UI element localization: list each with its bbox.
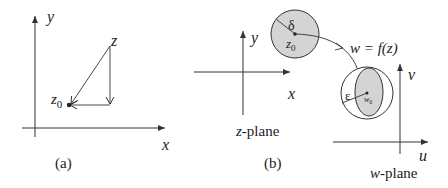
w-plane-v-label: v — [408, 66, 416, 83]
complex-mapping-diagram: y x z z0 (a) y x z-plane δ z0 w = f(z) — [0, 0, 448, 188]
caption-b: (b) — [264, 155, 282, 172]
image-region — [355, 68, 383, 116]
w-plane-u-label: u — [419, 147, 427, 164]
point-z0-label: z0 — [50, 91, 63, 110]
point-z-label: z — [110, 32, 118, 49]
x-axis-label: x — [161, 136, 169, 153]
z-plane-y-label: y — [249, 29, 259, 47]
caption-a: (a) — [55, 155, 72, 172]
panel-b: y x z-plane δ z0 w = f(z) ε w0 v u w-p — [194, 10, 428, 181]
y-axis-label: y — [45, 8, 55, 26]
delta-label: δ — [288, 18, 295, 33]
point-z0 — [67, 103, 71, 107]
diagonal-vector — [71, 46, 110, 104]
w-plane-label: w-plane — [370, 165, 418, 181]
mapping-label: w = f(z) — [350, 40, 398, 57]
z-plane-label: z-plane — [235, 123, 280, 139]
panel-a: y x z z0 (a) — [22, 8, 169, 172]
z-plane-x-label: x — [287, 85, 295, 102]
epsilon-label: ε — [345, 88, 351, 103]
